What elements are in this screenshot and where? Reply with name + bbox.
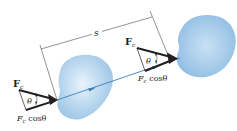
displacement-label: s (94, 28, 99, 38)
force-triangle-final (137, 48, 178, 71)
component-label-initial: Fc cosθ (16, 114, 47, 124)
force-label-final: Fc (125, 36, 136, 48)
force-label-initial: Fc (13, 78, 24, 90)
body-initial (57, 55, 113, 120)
body-final (177, 15, 236, 77)
component-label-final: Fc cosθ (137, 74, 168, 84)
angle-label-initial: θ (27, 97, 32, 106)
angle-label-final: θ (146, 57, 151, 66)
work-diagram: s Fc θ Fc cosθ Fc θ Fc cosθ (0, 0, 237, 131)
force-triangle-initial (19, 90, 58, 110)
